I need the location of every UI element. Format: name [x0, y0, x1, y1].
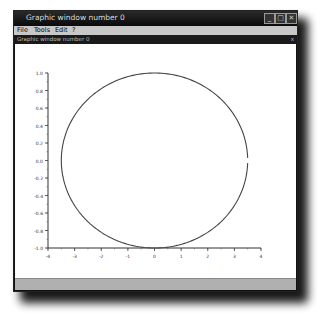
- figure-tab-title: Graphic window number 0: [17, 36, 90, 42]
- svg-text:-0.8: -0.8: [34, 229, 43, 234]
- svg-text:1.0: 1.0: [36, 71, 43, 76]
- close-button[interactable]: ✕: [286, 13, 297, 24]
- maximize-button[interactable]: □: [275, 13, 286, 24]
- svg-text:-1: -1: [126, 254, 131, 259]
- title-bar[interactable]: Graphic window number 0 _ □ ✕: [14, 11, 297, 26]
- svg-text:0.2: 0.2: [36, 141, 43, 146]
- svg-text:0.4: 0.4: [36, 124, 43, 129]
- svg-text:-1.0: -1.0: [34, 246, 43, 251]
- graphic-window: Graphic window number 0 _ □ ✕ File Tools…: [13, 10, 298, 292]
- window-title: Graphic window number 0: [26, 13, 125, 22]
- plot-svg: 1.00.80.60.40.20.0-0.2-0.4-0.6-0.8-1.0-4…: [15, 44, 296, 278]
- menu-tools[interactable]: Tools: [34, 26, 50, 35]
- ellipse-curve: [61, 73, 247, 248]
- svg-text:-4: -4: [46, 254, 51, 259]
- status-bar: [15, 278, 296, 290]
- svg-text:-0.6: -0.6: [34, 211, 43, 216]
- svg-text:1: 1: [180, 254, 183, 259]
- svg-text:-2: -2: [99, 254, 104, 259]
- svg-text:0.6: 0.6: [36, 106, 43, 111]
- menu-help[interactable]: ?: [72, 26, 75, 35]
- svg-text:0.8: 0.8: [36, 89, 43, 94]
- svg-text:4: 4: [260, 254, 263, 259]
- svg-text:-3: -3: [72, 254, 77, 259]
- menu-file[interactable]: File: [17, 26, 28, 35]
- axes: 1.00.80.60.40.20.0-0.2-0.4-0.6-0.8-1.0-4…: [34, 71, 262, 259]
- menu-edit[interactable]: Edit: [55, 26, 68, 35]
- svg-text:0.0: 0.0: [36, 159, 43, 164]
- figure-tab-close[interactable]: x: [291, 36, 294, 42]
- svg-text:-0.2: -0.2: [34, 176, 43, 181]
- plot-canvas[interactable]: 1.00.80.60.40.20.0-0.2-0.4-0.6-0.8-1.0-4…: [15, 44, 296, 278]
- svg-text:3: 3: [233, 254, 236, 259]
- svg-text:-0.4: -0.4: [34, 194, 43, 199]
- menu-bar: File Tools Edit ?: [14, 26, 297, 35]
- figure-tab-bar: Graphic window number 0 x: [14, 35, 297, 44]
- minimize-button[interactable]: _: [264, 13, 275, 24]
- svg-text:2: 2: [206, 254, 209, 259]
- svg-text:0: 0: [153, 254, 156, 259]
